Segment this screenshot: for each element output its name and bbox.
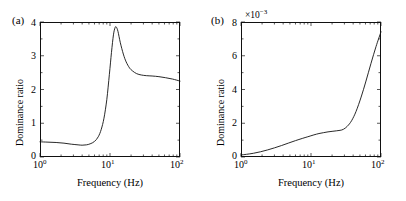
panel-a-xtick-2-base: 10 — [170, 159, 180, 170]
panel-a-xtick-0-exp: 0 — [43, 158, 47, 166]
panel-b-xtick-0-base: 10 — [234, 159, 244, 170]
panel-b-ticks — [241, 22, 381, 157]
panel-a-xtick-1-base: 10 — [101, 159, 111, 170]
panel-a-ticks — [40, 22, 180, 157]
panel-a-xtick-1: 101 — [101, 160, 115, 169]
panel-a-xtick-0-base: 10 — [33, 159, 43, 170]
panel-a-x-axis-label: Frequency (Hz) — [55, 177, 165, 188]
panel-b-xtick-1: 101 — [302, 160, 316, 169]
panel-b: (b) Dominance ratio ×10−3 8 6 4 2 0 100 … — [203, 0, 406, 201]
panel-b-xtick-2: 102 — [371, 160, 385, 169]
panel-b-xtick-1-exp: 1 — [312, 158, 316, 166]
panel-b-graphics — [203, 0, 406, 201]
panel-a-xtick-2: 102 — [170, 160, 184, 169]
panel-a-xtick-1-exp: 1 — [111, 158, 115, 166]
panel-b-xtick-0: 100 — [234, 160, 248, 169]
panel-a: (a) Dominance ratio 4 3 2 1 0 100 101 10… — [0, 0, 203, 201]
panel-a-curve — [40, 27, 180, 146]
figure-two-panel-dominance-ratio: (a) Dominance ratio 4 3 2 1 0 100 101 10… — [0, 0, 406, 201]
panel-b-xtick-0-exp: 0 — [244, 158, 248, 166]
panel-a-xtick-2-exp: 2 — [180, 158, 184, 166]
panel-a-graphics — [0, 0, 203, 201]
panel-b-curve — [241, 32, 381, 155]
panel-b-xtick-2-base: 10 — [371, 159, 381, 170]
panel-b-xtick-2-exp: 2 — [381, 158, 385, 166]
panel-b-xtick-1-base: 10 — [302, 159, 312, 170]
panel-b-x-axis-label: Frequency (Hz) — [256, 177, 366, 188]
panel-a-xtick-0: 100 — [33, 160, 47, 169]
